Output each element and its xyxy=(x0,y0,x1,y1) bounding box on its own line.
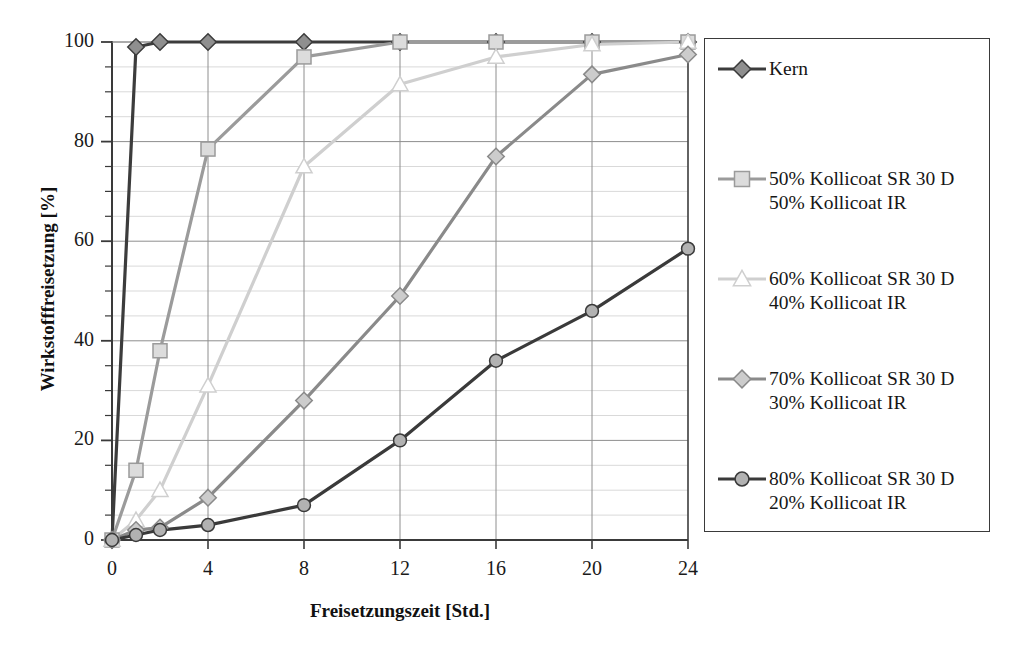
x-tick-label: 24 xyxy=(663,557,713,580)
data-point xyxy=(393,35,407,49)
legend-item-label: 70% Kollicoat SR 30 D 30% Kollicoat IR xyxy=(769,367,954,415)
data-point xyxy=(490,354,503,367)
legend-item[interactable]: 80% Kollicoat SR 30 D 20% Kollicoat IR xyxy=(715,467,954,515)
x-axis-title: Freisetzungszeit [Std.] xyxy=(180,600,620,622)
chart-page: 020406080100 04812162024 Wirkstofffreise… xyxy=(0,0,1013,648)
data-point xyxy=(200,34,217,51)
x-tick-label: 20 xyxy=(567,557,617,580)
legend-item[interactable]: 60% Kollicoat SR 30 D 40% Kollicoat IR xyxy=(715,267,954,315)
data-point xyxy=(297,50,311,64)
legend-item[interactable]: 70% Kollicoat SR 30 D 30% Kollicoat IR xyxy=(715,367,954,415)
data-point xyxy=(586,304,599,317)
triangle-open-icon xyxy=(715,268,769,290)
x-tick-label: 12 xyxy=(375,557,425,580)
data-point xyxy=(394,434,407,447)
circle-grey-icon xyxy=(715,468,769,490)
chart-figure: 020406080100 04812162024 Wirkstofffreise… xyxy=(0,0,1013,648)
data-point xyxy=(682,242,695,255)
data-point xyxy=(489,35,503,49)
square-light-icon xyxy=(715,168,769,190)
data-point xyxy=(296,34,313,51)
x-tick-label: 16 xyxy=(471,557,521,580)
legend-item-label: 80% Kollicoat SR 30 D 20% Kollicoat IR xyxy=(769,467,954,515)
legend-item[interactable]: 50% Kollicoat SR 30 D 50% Kollicoat IR xyxy=(715,167,954,215)
y-tick-label: 20 xyxy=(34,427,94,450)
data-point xyxy=(298,499,311,512)
diamond-grey-icon xyxy=(715,368,769,390)
y-tick-label: 0 xyxy=(34,527,94,550)
data-point xyxy=(106,534,119,547)
diamond-dark-icon xyxy=(715,58,769,80)
legend-item-label: 50% Kollicoat SR 30 D 50% Kollicoat IR xyxy=(769,167,954,215)
data-point xyxy=(128,39,145,56)
legend-item[interactable]: Kern xyxy=(715,57,808,81)
data-point xyxy=(129,463,143,477)
data-point xyxy=(130,529,143,542)
data-point xyxy=(153,344,167,358)
data-point xyxy=(152,34,169,51)
y-tick-label: 100 xyxy=(34,29,94,52)
chart-legend: Kern50% Kollicoat SR 30 D 50% Kollicoat … xyxy=(704,38,990,532)
y-axis-title: Wirkstofffreisetzung [%] xyxy=(37,159,59,419)
x-tick-label: 4 xyxy=(183,557,233,580)
x-tick-label: 0 xyxy=(87,557,137,580)
y-tick-label: 80 xyxy=(34,129,94,152)
data-point xyxy=(154,524,167,537)
x-tick-label: 8 xyxy=(279,557,329,580)
data-point xyxy=(152,482,168,496)
data-point xyxy=(201,142,215,156)
data-point xyxy=(200,378,216,392)
data-point xyxy=(202,519,215,532)
legend-item-label: 60% Kollicoat SR 30 D 40% Kollicoat IR xyxy=(769,267,954,315)
legend-item-label: Kern xyxy=(769,57,808,81)
